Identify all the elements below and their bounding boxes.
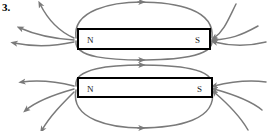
field-curves-top-right: [214, 4, 266, 45]
problem-number: 3.: [2, 1, 10, 13]
field-curves-bottom-left: [22, 81, 74, 130]
magnet-top-south-label: S: [195, 35, 200, 45]
field-curves-top-left: [14, 4, 74, 46]
magnet-bottom-south-label: S: [197, 84, 202, 94]
magnetic-field-figure: 3. N S N S: [0, 0, 272, 131]
bar-magnet-top: N S: [77, 28, 211, 50]
bar-magnet-bottom: N S: [77, 77, 213, 98]
magnet-top-north-label: N: [87, 35, 94, 45]
field-lines-svg: [0, 0, 272, 131]
magnet-bottom-north-label: N: [87, 84, 94, 94]
field-curves-bottom-right: [214, 81, 266, 130]
